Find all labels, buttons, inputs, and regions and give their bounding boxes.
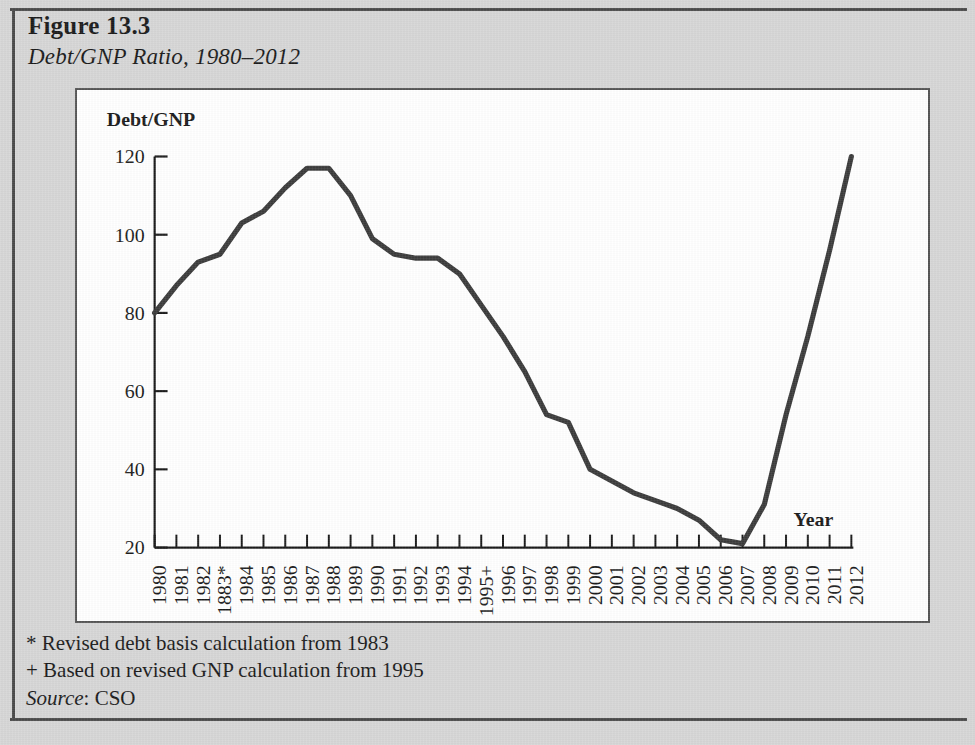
x-axis-tick-label: 2005 <box>692 565 714 605</box>
x-axis-tick-label: 1981 <box>170 565 192 605</box>
year-axis-label: Year <box>794 508 834 530</box>
x-axis-tick-label: 2007 <box>736 565 758 605</box>
x-axis-tick-label: 1986 <box>279 565 301 605</box>
x-axis-tick-label: 1989 <box>344 565 366 605</box>
frame-top-rule <box>10 8 967 11</box>
x-axis-tick-label: 1996 <box>497 565 519 605</box>
y-axis-tick-label: 80 <box>125 302 145 324</box>
x-axis-tick-label: 1995+ <box>475 565 497 616</box>
x-axis-tick-label: 1991 <box>388 565 410 605</box>
x-axis-tick-label: 2004 <box>671 565 693 605</box>
figure-subtitle: Debt/GNP Ratio, 1980–2012 <box>28 44 300 70</box>
x-axis-tick-label: 1988 <box>322 565 344 605</box>
x-axis-tick-label: 1883* <box>213 565 235 615</box>
chart-panel: 20406080100120Debt/GNP1980198119821883*1… <box>75 88 930 623</box>
x-axis-tick-label: 1994 <box>453 565 475 605</box>
line-chart: 20406080100120Debt/GNP1980198119821883*1… <box>77 90 928 621</box>
x-axis-tick-label: 1985 <box>257 565 279 605</box>
x-axis-tick-label: 2001 <box>605 565 627 605</box>
figure-container: Figure 13.3 Debt/GNP Ratio, 1980–2012 20… <box>0 0 975 745</box>
x-axis-tick-label: 2003 <box>649 565 671 605</box>
x-axis-tick-label: 1992 <box>409 565 431 605</box>
x-axis-tick-label: 1980 <box>148 565 170 605</box>
y-axis-tick-label: 20 <box>125 537 145 559</box>
footnotes-block: * Revised debt basis calculation from 19… <box>26 630 926 713</box>
footnote-plus: + Based on revised GNP calculation from … <box>26 657 926 684</box>
source-label: Source <box>26 686 84 710</box>
y-axis-tick-label: 120 <box>115 145 145 167</box>
frame-left-rule <box>12 8 15 720</box>
x-axis-tick-label: 1982 <box>192 565 214 605</box>
x-axis-tick-label: 1984 <box>235 565 257 605</box>
debt-gnp-series-line <box>155 156 852 543</box>
x-axis-tick-label: 2008 <box>758 565 780 605</box>
frame-bottom-rule <box>10 718 967 721</box>
footnote-asterisk: * Revised debt basis calculation from 19… <box>26 630 926 657</box>
x-axis-tick-label: 2010 <box>801 565 823 605</box>
x-axis-tick-label: 1990 <box>366 565 388 605</box>
x-axis-tick-label: 1987 <box>301 565 323 605</box>
source-value: : CSO <box>84 686 136 710</box>
x-axis-tick-label: 2009 <box>780 565 802 605</box>
x-axis-tick-label: 1998 <box>540 565 562 605</box>
y-axis-tick-label: 40 <box>125 458 145 480</box>
x-axis-tick-label: 2000 <box>584 565 606 605</box>
x-axis-tick-label: 2012 <box>845 565 867 605</box>
value-axis-label: Debt/GNP <box>107 108 195 130</box>
y-axis-tick-label: 100 <box>115 224 145 246</box>
x-axis-tick-label: 2011 <box>823 565 845 604</box>
x-axis-tick-label: 1997 <box>518 565 540 605</box>
x-axis-tick-label: 2006 <box>714 565 736 605</box>
x-axis-tick-label: 1999 <box>562 565 584 605</box>
x-axis-tick-label: 1993 <box>431 565 453 605</box>
figure-title: Figure 13.3 <box>28 12 151 40</box>
source-line: Source: CSO <box>26 684 926 713</box>
y-axis-tick-label: 60 <box>125 380 145 402</box>
x-axis-tick-label: 2002 <box>627 565 649 605</box>
